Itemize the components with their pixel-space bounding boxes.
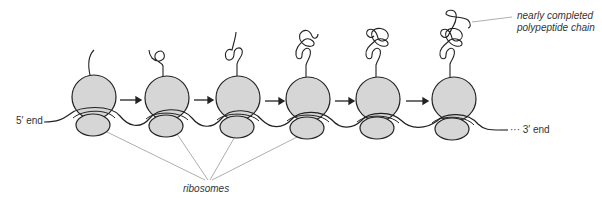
five-prime-end-label: 5′ end [16,115,43,127]
small-subunits [76,114,469,140]
polyribosome-diagram [0,0,602,201]
ribosome-pointer-lines [105,131,303,180]
mrna-strand [44,108,500,131]
polypeptide-pointer-line [472,17,512,22]
polypeptide-chains [89,10,471,77]
large-subunits [72,75,476,121]
polypeptide-label-line2: polypeptide chain [517,22,595,34]
mrna-inner-line [73,111,474,125]
three-prime-end-label: ··· 3′ end [510,124,550,136]
ribosomes-label: ribosomes [183,183,229,195]
polypeptide-label-line1: nearly completed [517,10,593,22]
